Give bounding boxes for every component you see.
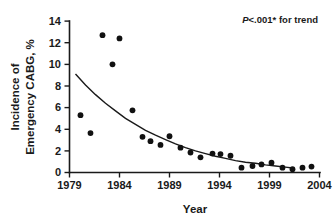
x-tick-label: 2004 [307,179,332,191]
x-axis-tick-labels: 1979 1984 1989 1994 1999 2004 [57,179,332,191]
data-point [158,142,164,148]
y-tick-label: 4 [55,123,62,135]
data-point [250,163,256,169]
x-tick-label: 1979 [57,179,81,191]
data-point [290,166,296,172]
data-point [239,165,245,171]
trend-curve [76,74,293,168]
data-point [117,36,123,42]
p-value-annotation: P<.001* for trend [242,14,318,25]
data-point [167,133,173,139]
x-tick-label: 1989 [157,179,181,191]
x-tick-label: 1984 [107,179,132,191]
y-tick-label: 14 [49,15,62,27]
x-tick-label: 1994 [207,179,232,191]
data-point [140,134,146,140]
x-tick-label: 1999 [257,179,281,191]
data-point [78,112,84,118]
y-axis-tick-labels: 0 2 4 6 8 10 12 14 [49,15,62,178]
data-point [218,151,224,157]
data-point [259,161,265,167]
y-tick-label: 6 [55,101,61,113]
data-point [309,164,315,170]
y-tick-label: 2 [55,145,61,157]
x-axis-title: Year [183,203,208,215]
y-axis-title-line1: Incidence of [9,63,21,130]
data-point [210,151,216,157]
y-axis-title-line2: Emergency CABG, % [24,39,36,155]
data-point [130,107,136,113]
data-point [88,130,94,136]
data-point [280,165,286,171]
figure-container: 0 2 4 6 8 10 12 14 1979 1984 1989 1994 1… [0,0,336,224]
y-tick-label: 8 [55,80,61,92]
data-point [110,61,116,67]
chart-canvas: 0 2 4 6 8 10 12 14 1979 1984 1989 1994 1… [0,0,336,224]
data-point [100,32,106,38]
data-point [198,154,204,160]
data-point [228,153,234,159]
data-point [300,165,306,171]
y-tick-label: 10 [49,58,61,70]
data-point [178,145,184,151]
data-point [148,138,154,144]
y-tick-label: 12 [49,37,61,49]
y-tick-label: 0 [55,166,61,178]
data-point [188,150,194,156]
data-point [269,160,275,166]
p-value-text: <.001* for trend [249,14,319,25]
